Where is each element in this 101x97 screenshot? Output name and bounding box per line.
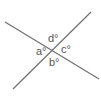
angle-label-b: b° bbox=[49, 57, 60, 68]
line-2 bbox=[13, 12, 91, 89]
angle-label-a: a° bbox=[36, 46, 47, 57]
lines-layer bbox=[0, 0, 101, 97]
angle-label-c: c° bbox=[61, 44, 71, 55]
angle-label-d: d° bbox=[48, 33, 59, 44]
intersecting-lines-diagram: a° b° c° d° bbox=[0, 0, 101, 97]
